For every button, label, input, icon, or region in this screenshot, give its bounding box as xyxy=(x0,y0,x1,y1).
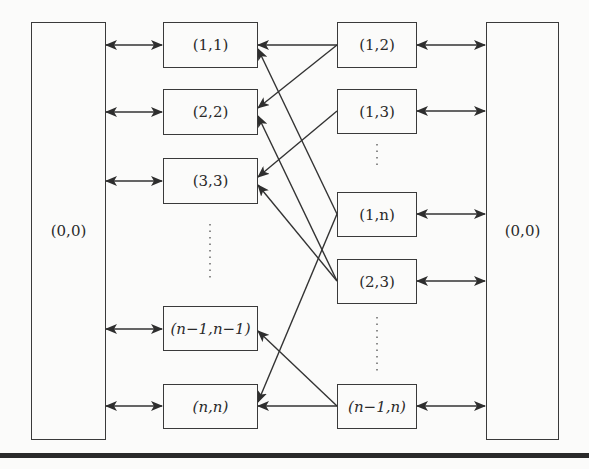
edge-nm1n-nm1m1 xyxy=(258,331,337,406)
node-label: (2,2) xyxy=(193,103,229,121)
edge-n1n-n11 xyxy=(258,49,337,214)
node-label: (2,3) xyxy=(359,273,395,291)
node-label: (1,3) xyxy=(359,103,395,121)
node-3-3: (3,3) xyxy=(163,158,258,204)
edge-n1n-nnn xyxy=(258,214,337,402)
node-label: (n−1,n−1) xyxy=(170,320,250,338)
left-hub-node: (0,0) xyxy=(31,22,106,440)
node-2-2: (2,2) xyxy=(163,89,258,135)
node-1-3: (1,3) xyxy=(337,89,417,134)
node-label: (n−1,n) xyxy=(348,398,406,416)
edge-n12-n22 xyxy=(258,45,337,108)
right-hub-label: (0,0) xyxy=(505,222,541,240)
bottom-rule xyxy=(0,453,589,458)
right-hub-node: (0,0) xyxy=(486,22,559,440)
node-label: (1,1) xyxy=(193,36,229,54)
node-1-n: (1,n) xyxy=(337,192,417,237)
node-label: (1,2) xyxy=(359,36,395,54)
node-nm1-n: (n−1,n) xyxy=(337,384,417,429)
node-nm1-nm1: (n−1,n−1) xyxy=(163,306,258,351)
node-n-n: (n,n) xyxy=(163,384,258,429)
node-2-3: (2,3) xyxy=(337,259,417,304)
node-label: (n,n) xyxy=(193,398,229,416)
node-1-2: (1,2) xyxy=(337,22,417,68)
left-hub-label: (0,0) xyxy=(51,222,87,240)
node-1-1: (1,1) xyxy=(163,22,258,68)
node-label: (3,3) xyxy=(193,172,229,190)
node-label: (1,n) xyxy=(359,206,395,224)
edge-n13-n33 xyxy=(258,111,337,177)
